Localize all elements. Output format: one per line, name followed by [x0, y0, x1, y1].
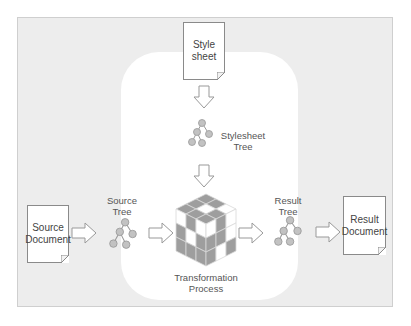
- source-doc-label-2: Document: [25, 234, 71, 246]
- source-doc-label-1: Source: [25, 222, 71, 234]
- arrow-right-icon: [71, 222, 97, 244]
- arrow-right-icon: [238, 222, 264, 244]
- page-fold-icon: [378, 247, 386, 255]
- stylesheet-tree-label: Stylesheet Tree: [218, 130, 268, 152]
- stylesheet-doc-label-1: Style: [192, 39, 216, 51]
- page-fold-icon: [217, 72, 225, 80]
- page-fold-icon: [61, 255, 69, 263]
- result-document: Result Document: [343, 196, 386, 255]
- arrow-right-icon: [148, 222, 174, 244]
- result-doc-label-1: Result: [342, 214, 388, 226]
- result-tree-icon: [274, 216, 304, 248]
- arrow-right-icon: [315, 221, 341, 243]
- transformation-process-label: Transformation Process: [170, 272, 242, 294]
- arrow-down-icon: [193, 85, 215, 109]
- source-document: Source Document: [27, 205, 69, 263]
- stylesheet-doc-label-2: sheet: [192, 51, 216, 63]
- transformation-cube-icon: [173, 192, 239, 268]
- result-doc-label-2: Document: [342, 226, 388, 238]
- arrow-down-icon: [193, 164, 215, 188]
- stylesheet-document: Style sheet: [183, 22, 225, 80]
- result-tree-label: Result Tree: [270, 195, 306, 217]
- source-tree-label: Source Tree: [104, 195, 140, 217]
- source-tree-icon: [108, 218, 138, 250]
- stylesheet-tree-icon: [188, 118, 216, 148]
